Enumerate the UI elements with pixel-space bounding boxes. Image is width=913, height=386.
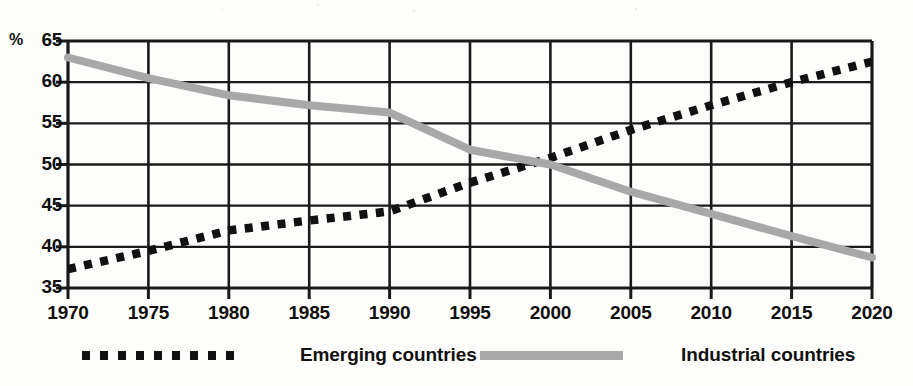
x-tick-label: 1995: [449, 302, 490, 324]
legend-label-industrial: Industrial countries: [681, 344, 855, 366]
y-tick-label: 35: [41, 276, 62, 298]
y-axis-tick-labels: 65%605550454035: [0, 0, 62, 300]
x-tick-label: 2015: [771, 302, 812, 324]
x-tick-label: 1980: [208, 302, 249, 324]
legend-swatch-dotted-icon: [82, 351, 234, 360]
y-tick-label: 65: [41, 29, 62, 51]
x-tick-label: 1985: [288, 302, 329, 324]
x-tick-label: 2005: [610, 302, 651, 324]
legend-label-emerging: Emerging countries: [300, 344, 477, 366]
x-tick-label: 1970: [47, 302, 88, 324]
gridlines: [56, 41, 872, 299]
y-tick-label: 60: [41, 70, 62, 92]
x-tick-label: 2010: [690, 302, 731, 324]
chart-figure: 65%605550454035 197019751980198519901995…: [0, 0, 913, 386]
line-chart-canvas: [0, 0, 913, 320]
legend-swatch-solid-icon: [480, 351, 623, 360]
y-tick-label: 50: [41, 153, 62, 175]
x-tick-label: 1975: [128, 302, 169, 324]
y-tick-label: 45: [41, 194, 62, 216]
legend-item-industrial: Industrial countries: [480, 344, 855, 366]
y-axis-unit-label: %: [9, 31, 23, 49]
y-tick-label: 55: [41, 111, 62, 133]
legend-item-emerging: Emerging countries: [82, 344, 477, 366]
chart-legend: Emerging countries Industrial countries: [0, 336, 913, 382]
x-tick-label: 1990: [369, 302, 410, 324]
y-tick-label: 40: [41, 235, 62, 257]
x-tick-label: 2000: [530, 302, 571, 324]
x-tick-label: 2020: [851, 302, 892, 324]
plot-area: 65%605550454035 197019751980198519901995…: [0, 0, 913, 320]
